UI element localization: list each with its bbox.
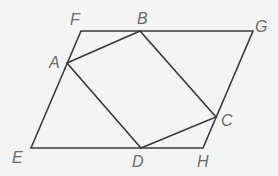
outer-parallelogram-efgh	[31, 31, 253, 148]
label-d: D	[132, 153, 144, 170]
label-a: A	[48, 54, 60, 71]
label-c: C	[221, 112, 233, 129]
label-g: G	[255, 18, 267, 35]
inner-quadrilateral-abcd	[67, 31, 216, 148]
label-b: B	[137, 10, 148, 27]
geometry-diagram: F B G A C E D H	[0, 0, 278, 176]
label-e: E	[12, 149, 23, 166]
label-f: F	[70, 11, 81, 28]
label-h: H	[197, 153, 209, 170]
